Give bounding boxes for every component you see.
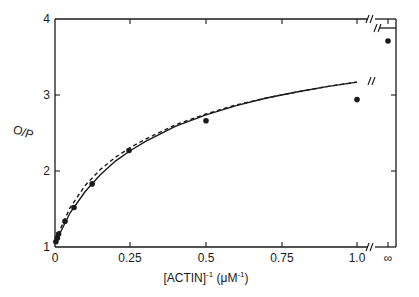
x-tick-label: 0.25 bbox=[118, 251, 142, 265]
axis-break-marks bbox=[366, 15, 381, 251]
y-ticks bbox=[55, 95, 396, 171]
x-tick-labels: 0 0.25 0.5 0.75 1.0 ∞ bbox=[52, 251, 393, 265]
x-tick-label: 0 bbox=[52, 251, 59, 265]
x-ticks bbox=[130, 19, 388, 247]
data-point bbox=[354, 97, 360, 103]
x-axis-label: [ACTIN]-1 (μM-1) bbox=[163, 270, 248, 285]
y-axis-label: O/P bbox=[11, 122, 35, 142]
data-point bbox=[126, 148, 132, 154]
data-point bbox=[89, 181, 95, 187]
y-tick-label: 3 bbox=[43, 88, 50, 102]
chart: 0 0.25 0.5 0.75 1.0 ∞ 1 2 3 4 O/P [ACTIN… bbox=[0, 0, 419, 297]
y-tick-label: 1 bbox=[43, 240, 50, 254]
data-points bbox=[53, 38, 391, 244]
dashed-fit-curve bbox=[55, 82, 357, 241]
solid-fit-curve bbox=[55, 82, 357, 243]
x-tick-label: 1.0 bbox=[349, 251, 366, 265]
x-tick-label-infinity: ∞ bbox=[384, 251, 393, 265]
data-point bbox=[203, 118, 209, 124]
x-tick-label: 0.5 bbox=[198, 251, 215, 265]
data-point bbox=[71, 205, 77, 211]
data-point bbox=[62, 218, 68, 224]
x-tick-label: 0.75 bbox=[270, 251, 294, 265]
plot-frame bbox=[55, 19, 396, 247]
y-tick-label: 4 bbox=[43, 12, 50, 26]
data-point bbox=[56, 231, 62, 237]
y-tick-label: 2 bbox=[43, 164, 50, 178]
y-tick-labels: 1 2 3 4 bbox=[43, 12, 50, 254]
fit-curves bbox=[55, 82, 357, 243]
data-point bbox=[385, 38, 391, 44]
